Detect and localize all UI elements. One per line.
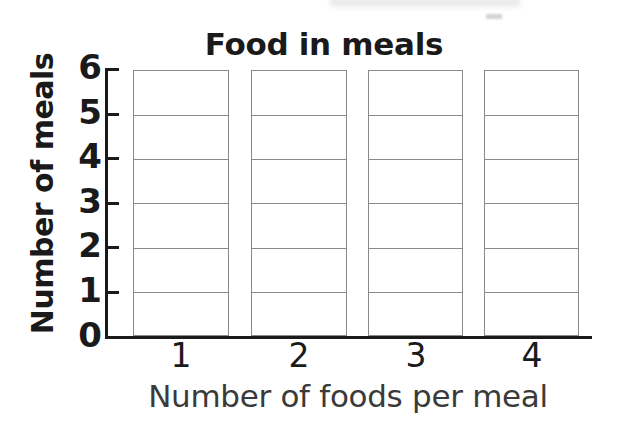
bar-gridline	[251, 248, 347, 249]
scan-artifact-speck	[486, 14, 502, 19]
y-tick-label-5: 5	[56, 95, 102, 129]
y-tick-label-0: 0	[56, 318, 102, 352]
chart-container: Food in meals Number of meals Number of …	[0, 0, 618, 436]
y-tick-mark-5	[108, 113, 119, 116]
bar-category-4[interactable]	[484, 70, 579, 336]
bar-gridline	[484, 292, 579, 293]
y-tick-label-6: 6	[56, 50, 102, 84]
bar-gridline	[484, 115, 579, 116]
y-tick-label-3: 3	[56, 184, 102, 218]
x-tick-label-4: 4	[484, 338, 580, 374]
bar-gridline	[251, 203, 347, 204]
x-tick-label-1: 1	[133, 338, 229, 374]
bar-gridline	[251, 159, 347, 160]
bar-gridline	[484, 203, 579, 204]
bar-gridline	[368, 203, 463, 204]
bar-gridline	[368, 248, 463, 249]
bar-gridline	[133, 115, 229, 116]
x-tick-label-3: 3	[368, 338, 464, 374]
bar-gridline	[251, 115, 347, 116]
bar-gridline	[368, 292, 463, 293]
x-axis-title: Number of foods per meal	[88, 378, 608, 414]
bar-gridline	[368, 159, 463, 160]
bar-gridline	[484, 159, 579, 160]
bar-gridline	[484, 248, 579, 249]
bar-category-3[interactable]	[368, 70, 463, 336]
x-tick-label-2: 2	[251, 338, 347, 374]
bar-gridline	[133, 159, 229, 160]
y-tick-label-2: 2	[56, 228, 102, 262]
bar-gridline	[368, 115, 463, 116]
bar-gridline	[133, 248, 229, 249]
y-tick-label-4: 4	[56, 139, 102, 173]
bar-category-1[interactable]	[133, 70, 229, 336]
y-tick-mark-3	[108, 202, 119, 205]
scan-artifact-smudge	[330, 0, 520, 13]
bar-gridline	[133, 292, 229, 293]
y-tick-mark-1	[108, 291, 119, 294]
bar-gridline	[133, 203, 229, 204]
y-tick-mark-4	[108, 157, 119, 160]
y-tick-label-1: 1	[56, 273, 102, 307]
y-tick-mark-6	[108, 68, 119, 71]
bar-category-2[interactable]	[251, 70, 347, 336]
y-tick-mark-2	[108, 246, 119, 249]
bar-gridline	[251, 292, 347, 293]
y-axis-title: Number of meals	[25, 34, 60, 354]
